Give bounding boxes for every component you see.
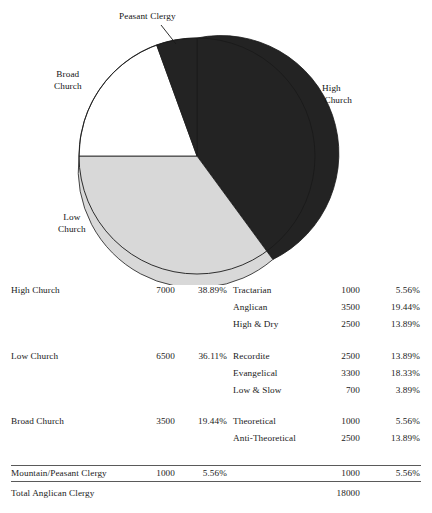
table-row-total: Total Anglican Clergy 18000 [0,488,432,505]
pie-label-high-church: High Church [322,83,352,106]
sub-count: 2500 [324,433,360,444]
table-row: Anti-Theoretical 2500 13.89% [0,433,432,450]
table-row: Anglican 3500 19.44% [0,302,432,319]
group-count: 3500 [137,416,175,427]
sub-count: 1000 [324,416,360,427]
table-row: Low & Slow 700 3.89% [0,385,432,402]
table-row: Evangelical 3300 18.33% [0,368,432,385]
table-row: High & Dry 2500 13.89% [0,319,432,336]
table-row: Low Church 6500 36.11% Recordite 2500 13… [0,351,432,368]
sub-percent: 5.56% [376,285,420,296]
pie-chart: Peasant Clergy BroadChurch LowChurch Hig… [0,0,432,285]
sub-count: 1000 [324,285,360,296]
group-name: Low Church [11,351,58,362]
table-row-ruled: Mountain/Peasant Clergy 1000 5.56% 1000 … [0,465,432,483]
sub-percent: 5.56% [376,416,420,427]
sub-name: Recordite [233,351,270,362]
pie-label-broad-church: BroadChurch [54,69,82,92]
sub-name: Anglican [233,302,267,313]
group-count: 6500 [137,351,175,362]
group-name: High Church [11,285,60,296]
pie-label-peasant-clergy: Peasant Clergy [119,11,176,23]
row-spacer [0,402,432,416]
group-name: Broad Church [11,416,64,427]
clergy-pie-figure: Peasant Clergy BroadChurch LowChurch Hig… [0,0,432,513]
sub-count: 1000 [324,468,360,479]
sub-percent: 18.33% [376,368,420,379]
group-percent: 5.56% [183,468,227,479]
clergy-breakdown-table: High Church 7000 38.89% Tractarian 1000 … [0,285,432,505]
table-row: High Church 7000 38.89% Tractarian 1000 … [0,285,432,302]
sub-name: Anti-Theoretical [233,433,296,444]
sub-percent: 5.56% [376,468,420,479]
sub-count: 3300 [324,368,360,379]
group-count: 1000 [137,468,175,479]
row-spacer [0,451,432,465]
table-rule-bottom [11,481,421,482]
table-rule-top [11,465,421,466]
sub-percent: 13.89% [376,319,420,330]
sub-count: 700 [324,385,360,396]
sub-percent: 13.89% [376,433,420,444]
group-count: 7000 [137,285,175,296]
sub-name: Tractarian [233,285,271,296]
sub-name: Theoretical [233,416,276,427]
pie-chart-svg [0,0,432,285]
group-percent: 19.44% [183,416,227,427]
group-percent: 38.89% [183,285,227,296]
group-name: Mountain/Peasant Clergy [11,468,107,479]
pie-label-low-church: LowChurch [58,212,86,235]
table-row: Broad Church 3500 19.44% Theoretical 100… [0,416,432,433]
sub-name: Evangelical [233,368,277,379]
sub-count: 2500 [324,351,360,362]
group-percent: 36.11% [183,351,227,362]
sub-percent: 3.89% [376,385,420,396]
total-value: 18000 [324,488,360,499]
sub-count: 2500 [324,319,360,330]
total-label: Total Anglican Clergy [11,488,94,499]
sub-name: Low & Slow [233,385,281,396]
row-spacer [0,337,432,351]
sub-percent: 13.89% [376,351,420,362]
sub-count: 3500 [324,302,360,313]
sub-percent: 19.44% [376,302,420,313]
sub-name: High & Dry [233,319,278,330]
